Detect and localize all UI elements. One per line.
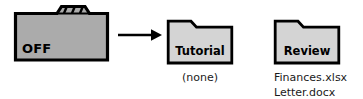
diagram-canvas: OFF Tutorial (none) Review Finances.xlsx [0,0,363,99]
tutorial-folder-icon-wrap[interactable]: Tutorial [166,18,234,65]
flow-arrow [118,28,163,42]
tutorial-contents-empty: (none) [166,70,234,85]
target-folder-tutorial[interactable]: Tutorial (none) [166,18,234,85]
tutorial-folder-contents: (none) [166,70,234,85]
review-content-file: Letter.docx [274,85,347,99]
right-arrow-icon [118,28,163,42]
review-folder-label: Review [273,46,341,58]
target-folder-review[interactable]: Review Finances.xlsx Letter.docx [273,18,347,99]
review-folder-icon-wrap[interactable]: Review [273,18,341,65]
tutorial-folder-label: Tutorial [166,46,234,58]
folder-icon [273,18,341,65]
source-folder[interactable]: OFF [13,4,110,62]
source-folder-label: OFF [22,42,51,55]
review-folder-contents: Finances.xlsx Letter.docx [274,70,347,99]
review-content-file: Finances.xlsx [274,70,347,85]
folder-icon [166,18,234,65]
